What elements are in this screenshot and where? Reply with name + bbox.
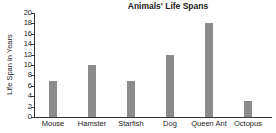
y-tick-label: 12: [12, 51, 32, 59]
y-tick-label: 16: [12, 30, 32, 38]
plot-area: 02468101214161820 MouseHamsterStarfishDo…: [34, 13, 272, 117]
y-tick-label: 18: [12, 19, 32, 27]
y-tick-label: 10: [12, 61, 32, 69]
bar-mouse: [49, 81, 57, 117]
y-tick-label: 6: [12, 82, 32, 90]
chart-title: Animals' Life Spans: [0, 1, 276, 11]
x-axis-line: [34, 117, 272, 118]
bar-hamster: [88, 65, 96, 117]
bar-octopus: [244, 101, 252, 117]
y-tick-label: 2: [12, 103, 32, 111]
bar-queen-ant: [205, 23, 213, 117]
y-tick-label: 4: [12, 92, 32, 100]
y-tick-label: 20: [12, 9, 32, 17]
y-tick-label: 8: [12, 71, 32, 79]
bar-dog: [166, 55, 174, 117]
bar-starfish: [127, 81, 135, 117]
y-tick-label: 14: [12, 40, 32, 48]
bars: [34, 13, 272, 117]
x-tick-label: Octopus: [223, 119, 273, 128]
